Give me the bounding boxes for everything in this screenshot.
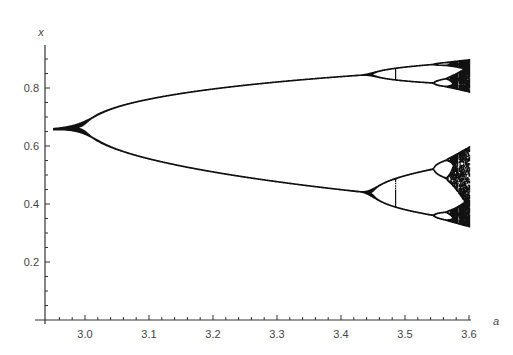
- bifurcation-chart: 0.20.40.60.8 3.03.13.23.33.43.53.6 x a: [0, 0, 513, 355]
- x-axis-label: a: [493, 315, 499, 327]
- x-tick-label: 3.3: [269, 328, 284, 340]
- y-tick-label: 0.6: [24, 140, 39, 152]
- x-tick-label: 3.1: [141, 328, 156, 340]
- y-axis-ticks: 0.20.40.60.8: [24, 59, 50, 306]
- y-tick-label: 0.2: [24, 256, 39, 268]
- x-tick-label: 3.4: [333, 328, 348, 340]
- x-axis-ticks: 3.03.13.23.33.43.53.6: [59, 315, 476, 340]
- x-tick-label: 3.0: [77, 328, 92, 340]
- x-tick-label: 3.2: [205, 328, 220, 340]
- y-tick-label: 0.8: [24, 82, 39, 94]
- x-tick-label: 3.5: [397, 328, 412, 340]
- bifurcation-points: [53, 59, 470, 228]
- y-axis-label: x: [37, 26, 44, 38]
- axes: 0.20.40.60.8 3.03.13.23.33.43.53.6 x a: [24, 26, 499, 340]
- orbit-points: [53, 59, 470, 228]
- y-tick-label: 0.4: [24, 198, 39, 210]
- x-tick-label: 3.6: [461, 328, 476, 340]
